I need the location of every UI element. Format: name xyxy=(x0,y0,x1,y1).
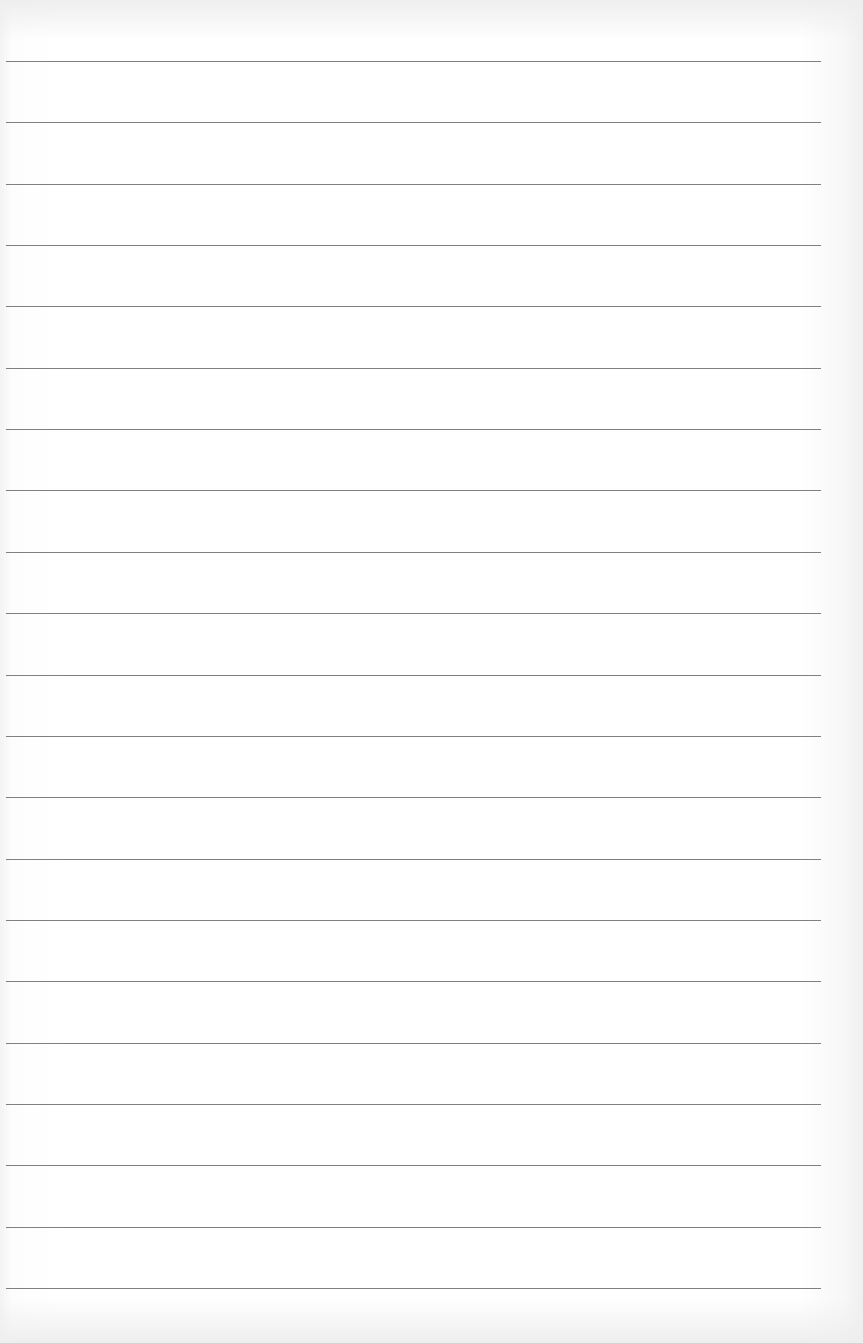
ruled-line xyxy=(6,61,821,62)
ruled-line xyxy=(6,981,821,982)
ruled-line xyxy=(6,1288,821,1289)
ruled-line xyxy=(6,675,821,676)
ruled-line xyxy=(6,613,821,614)
ruled-line xyxy=(6,736,821,737)
ruled-line xyxy=(6,797,821,798)
ruled-line xyxy=(6,1227,821,1228)
ruled-line xyxy=(6,245,821,246)
ruled-line xyxy=(6,552,821,553)
ruled-line xyxy=(6,1104,821,1105)
ruled-line xyxy=(6,184,821,185)
lined-paper-sheet xyxy=(0,0,863,1343)
ruled-line xyxy=(6,490,821,491)
ruled-line xyxy=(6,1043,821,1044)
ruled-line xyxy=(6,429,821,430)
ruled-line xyxy=(6,1165,821,1166)
ruled-line xyxy=(6,368,821,369)
ruled-line xyxy=(6,122,821,123)
ruled-line xyxy=(6,859,821,860)
ruled-line xyxy=(6,306,821,307)
ruled-line xyxy=(6,920,821,921)
